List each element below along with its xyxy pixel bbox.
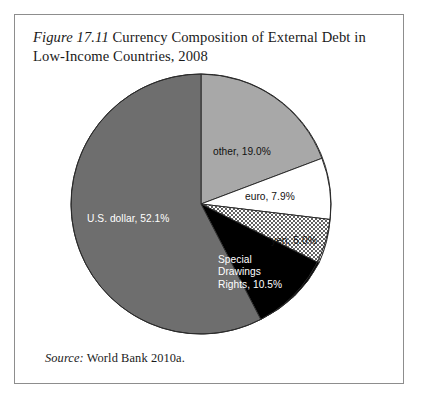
pie-label-yen: yen, 5.0% xyxy=(271,235,317,247)
pie-chart: U.S. dollar, 52.1% other, 19.0% euro, 7.… xyxy=(15,15,405,385)
pie-label-other: other, 19.0% xyxy=(213,146,271,158)
figure-frame: Figure 17.11 Currency Composition of Ext… xyxy=(14,14,404,384)
pie-label-sdr: SpecialDrawingsRights, 10.5% xyxy=(218,254,282,291)
pie-label-sdr-line3: Rights, 10.5% xyxy=(218,279,282,290)
source-label: Source: xyxy=(45,351,84,365)
pie-label-euro: euro, 7.9% xyxy=(245,191,295,203)
pie-chart-svg xyxy=(63,66,339,342)
pie-label-usd: U.S. dollar, 52.1% xyxy=(87,213,169,225)
figure-source: Source: World Bank 2010a. xyxy=(45,351,185,366)
pie-label-sdr-line1: Special xyxy=(218,254,252,265)
pie-label-sdr-line2: Drawings xyxy=(218,266,261,277)
source-text: World Bank 2010a. xyxy=(87,351,185,365)
